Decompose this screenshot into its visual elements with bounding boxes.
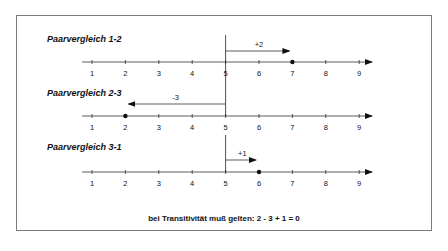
tick-label: 5 (224, 123, 228, 132)
tick-label: 3 (157, 69, 161, 78)
tick-label: 2 (123, 123, 127, 132)
tick-label: 7 (290, 69, 294, 78)
tick-label: 9 (357, 179, 361, 188)
tick-label: 4 (190, 69, 194, 78)
result-point (290, 60, 294, 64)
tick-label: 6 (257, 123, 261, 132)
difference-label: +2 (255, 40, 264, 49)
difference-label: -3 (172, 93, 179, 102)
tick-label: 3 (157, 179, 161, 188)
transitivity-note: bei Transitivität muß gelten: 2 - 3 + 1 … (0, 214, 448, 223)
result-point (257, 170, 261, 174)
tick-label: 5 (224, 179, 228, 188)
tick-label: 1 (90, 123, 94, 132)
tick-label: 2 (123, 69, 127, 78)
tick-label: 9 (357, 123, 361, 132)
tick-label: 8 (324, 123, 328, 132)
tick-label: 6 (257, 179, 261, 188)
result-point (123, 114, 127, 118)
tick-label: 9 (357, 69, 361, 78)
tick-label: 2 (123, 179, 127, 188)
tick-label: 4 (190, 179, 194, 188)
tick-label: 3 (157, 123, 161, 132)
tick-label: 4 (190, 123, 194, 132)
tick-label: 8 (324, 179, 328, 188)
tick-label: 6 (257, 69, 261, 78)
difference-label: +1 (238, 149, 247, 158)
tick-label: 7 (290, 123, 294, 132)
tick-label: 7 (290, 179, 294, 188)
tick-label: 1 (90, 69, 94, 78)
tick-label: 8 (324, 69, 328, 78)
tick-label: 1 (90, 179, 94, 188)
